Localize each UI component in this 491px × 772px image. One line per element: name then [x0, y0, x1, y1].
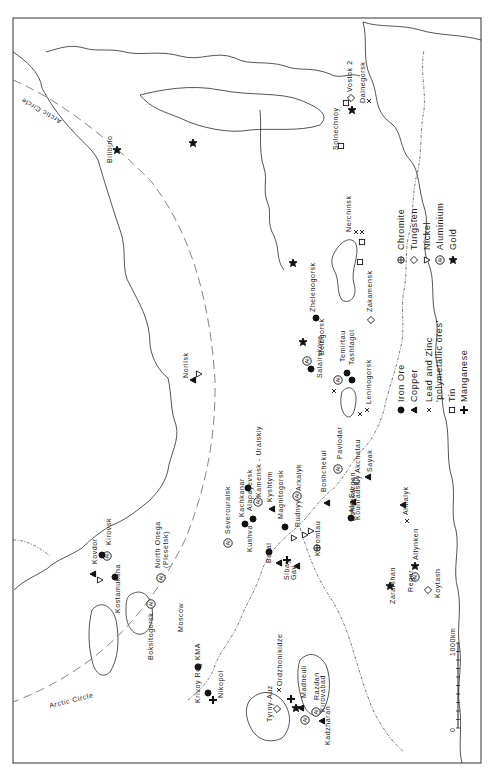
svg-text:North Onega: North Onega: [154, 521, 162, 568]
svg-text:Kushva: Kushva: [246, 525, 253, 552]
svg-text:Belogorsk: Belogorsk: [318, 318, 326, 355]
svg-text:Zarafshan: Zarafshan: [389, 567, 396, 604]
svg-text:KMA: KMA: [194, 643, 201, 660]
svg-text:Nerchinsk: Nerchinsk: [345, 195, 352, 232]
svg-text:Pavlodar: Pavlodar: [336, 427, 343, 459]
svg-text:Madneuli: Madneuli: [300, 665, 307, 698]
svg-text:Kachkanar: Kachkanar: [238, 478, 245, 517]
svg-text:Zhelenogorsk: Zhelenogorsk: [309, 262, 317, 312]
scale-end: 1000km: [449, 627, 456, 656]
svg-text:Nikopol: Nikopol: [217, 670, 225, 698]
legend-nickel: Nickel: [422, 222, 432, 250]
svg-text:(Plesetsk): (Plesetsk): [162, 531, 170, 568]
place-labels: Bilibino Norilsk Kovdor Kirovsk Kostamuk…: [91, 60, 442, 745]
svg-text:Khromtau: Khromtau: [314, 521, 321, 556]
svg-text:Solnechnoy: Solnechnoy: [332, 107, 340, 150]
svg-text:Kostamuksha: Kostamuksha: [114, 564, 121, 613]
svg-text:Bilibino: Bilibino: [106, 136, 113, 163]
svg-text:Kadzharan: Kadzharan: [324, 706, 331, 745]
svg-text:Moscow: Moscow: [177, 602, 184, 632]
svg-text:Gay: Gay: [290, 565, 298, 580]
legend-copper: Copper: [409, 369, 419, 402]
legend-aluminium: Aluminium: [435, 203, 445, 250]
legend-polymetallic: 'polymetallic ores': [434, 320, 444, 402]
svg-text:Altynken: Altynken: [412, 528, 420, 560]
svg-text:Norilsk: Norilsk: [182, 352, 189, 378]
svg-text:Dalnegorsk: Dalnegorsk: [359, 62, 367, 103]
svg-text:Koytash: Koytash: [434, 569, 442, 599]
svg-text:Boshchekul: Boshchekul: [320, 450, 327, 492]
svg-text:Kyshtym: Kyshtym: [266, 471, 274, 502]
svg-text:Vostok 2: Vostok 2: [346, 60, 353, 92]
legend-tin: Tin: [447, 388, 457, 402]
svg-text:Tyrny-Auz: Tyrny-Auz: [266, 685, 274, 722]
svg-text:Tashtagol: Tashtagol: [348, 330, 356, 365]
svg-text:Krivoy Rog: Krivoy Rog: [194, 663, 202, 703]
deposit-symbols: [90, 94, 432, 724]
svg-text:Arkalyk: Arkalyk: [295, 464, 303, 491]
legend-iron-ore: Iron Ore: [396, 364, 406, 402]
svg-text:Temirtau: Temirtau: [339, 330, 346, 362]
svg-text:Rudnyy: Rudnyy: [294, 500, 302, 527]
svg-text:Kirovsk: Kirovsk: [105, 518, 112, 545]
svg-text:Zakamensk: Zakamensk: [366, 270, 373, 312]
legend-lead-zinc: Lead and Zinc: [424, 337, 434, 402]
svg-text:Regar: Regar: [407, 570, 415, 592]
legend-tungsten: Tungsten: [409, 208, 419, 250]
scale-start: 0: [449, 728, 456, 733]
svg-text:Almalyk: Almalyk: [402, 486, 410, 515]
legend-gold: Gold: [448, 229, 458, 250]
svg-text:Magnitogorsk: Magnitogorsk: [277, 470, 285, 519]
international-borders: [13, 50, 424, 752]
svg-text:Leninogorsk: Leninogorsk: [365, 359, 373, 404]
svg-text:Severouralsk: Severouralsk: [224, 486, 231, 534]
svg-text:Kovdor: Kovdor: [91, 538, 98, 564]
svg-text:Kamensk - Uralskiy: Kamensk - Uralskiy: [255, 426, 263, 497]
svg-text:Boksitogorsk: Boksitogorsk: [147, 613, 155, 660]
svg-text:Alapayevsk: Alapayevsk: [246, 469, 254, 511]
svg-text:Ordzhonikidze: Ordzhonikidze: [276, 633, 283, 686]
ussr-mineral-map: Al Arctic Circle Arctic Circle: [0, 0, 491, 772]
scale-bar: 0 1000km: [449, 627, 460, 732]
svg-text:Sayak: Sayak: [366, 450, 374, 472]
svg-text:Bakal: Bakal: [265, 542, 272, 563]
svg-text:Akchatau: Akchatau: [354, 439, 361, 473]
map-legend: Iron Ore Copper Lead and Zinc 'polymetal…: [396, 203, 469, 414]
legend-manganese: Manganese: [459, 350, 469, 402]
svg-text:Kounradskiy: Kounradskiy: [354, 475, 362, 520]
legend-chromite: Chromite: [396, 209, 406, 250]
arctic-circle-label-south: Arctic Circle: [49, 691, 94, 709]
